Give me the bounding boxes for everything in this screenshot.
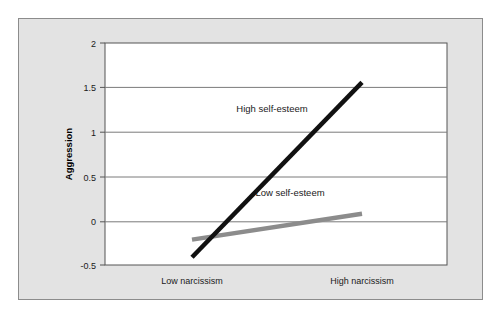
y-tick-label-1.5: 1.5 <box>83 83 96 93</box>
y-tick-label-0.5: 0.5 <box>83 173 96 183</box>
series-label-low-self-esteem: Low self-esteem <box>255 187 324 198</box>
series-label-high-self-esteem: High self-esteem <box>236 103 307 114</box>
plot-area-background <box>105 43 447 265</box>
y-tick-label-0: 0 <box>91 217 96 227</box>
y-axis-ticks <box>100 43 105 265</box>
y-tick-label-1: 1 <box>91 128 96 138</box>
line-chart: 2 1.5 1 0.5 0 -0.5 Aggression High self-… <box>0 0 502 320</box>
y-axis-title: Aggression <box>63 128 74 180</box>
x-tick-label-high-narcissism: High narcissism <box>330 276 394 286</box>
y-tick-label--0.5: -0.5 <box>80 261 96 271</box>
x-tick-label-low-narcissism: Low narcissism <box>161 276 223 286</box>
figure-root: 2 1.5 1 0.5 0 -0.5 Aggression High self-… <box>0 0 502 320</box>
y-tick-label-2: 2 <box>91 39 96 49</box>
